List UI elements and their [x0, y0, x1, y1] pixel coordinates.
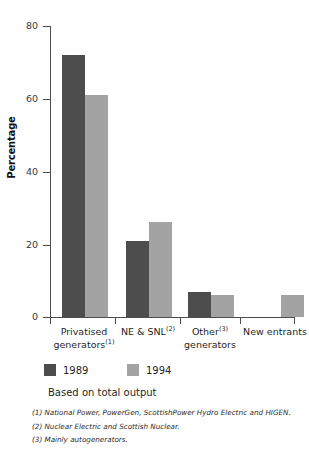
- legend-label-1994: 1994: [146, 365, 171, 376]
- cat1-line2: generators: [53, 339, 105, 350]
- legend-item-1989: 1989: [44, 364, 88, 376]
- x-tick-0: [50, 317, 51, 324]
- bar-chart: Percentage 80 60 40 20 0 Privatised gene…: [0, 0, 309, 320]
- y-tick-label-60: 60: [26, 94, 38, 104]
- legend: 1989 1994: [44, 364, 284, 378]
- bars-layer: [50, 26, 295, 317]
- cat1-superscript: (1): [105, 337, 114, 345]
- category-label-new-entrants: New entrants: [240, 326, 309, 339]
- bar-privatised-generators-1994: [85, 95, 108, 317]
- x-tick-2: [180, 317, 181, 324]
- bar-ne-snl-1994: [149, 222, 172, 317]
- footnote-3: (3) Mainly autogenerators.: [32, 435, 292, 445]
- cat2-line1: NE & SNL: [121, 326, 166, 337]
- y-tick-label-20: 20: [26, 240, 38, 250]
- footnote-1: (1) National Power, PowerGen, ScottishPo…: [32, 408, 292, 418]
- y-axis-title: Percentage: [6, 103, 17, 193]
- cat1-line1: Privatised: [61, 326, 108, 337]
- bar-other-generators-1994: [211, 295, 234, 317]
- y-tick-label-40: 40: [26, 167, 38, 177]
- cat3-line1: Other: [192, 326, 219, 337]
- bar-ne-snl-1989: [126, 241, 149, 317]
- cat4-line1: New entrants: [243, 326, 307, 337]
- legend-label-1989: 1989: [63, 365, 88, 376]
- legend-item-1994: 1994: [127, 364, 171, 376]
- x-axis-line: [50, 317, 295, 318]
- x-tick-1: [115, 317, 116, 324]
- x-tick-4: [294, 317, 295, 324]
- cat3-superscript: (3): [219, 325, 228, 333]
- bar-other-generators-1989: [188, 292, 211, 317]
- cat3-line2: generators: [184, 339, 236, 350]
- basis-note: Based on total output: [48, 387, 157, 398]
- bar-privatised-generators-1989: [62, 55, 85, 317]
- legend-swatch-1989-icon: [44, 364, 56, 376]
- bar-new-entrants-1994: [281, 295, 304, 317]
- x-tick-3: [240, 317, 241, 324]
- footnotes: (1) National Power, PowerGen, ScottishPo…: [32, 408, 292, 445]
- y-tick-label-80: 80: [26, 21, 38, 31]
- legend-swatch-1994-icon: [127, 364, 139, 376]
- footnote-2: (2) Nuclear Electric and Scottish Nuclea…: [32, 422, 292, 432]
- category-label-other-generators: Other(3) generators: [174, 326, 246, 351]
- y-tick-label-0: 0: [32, 312, 38, 322]
